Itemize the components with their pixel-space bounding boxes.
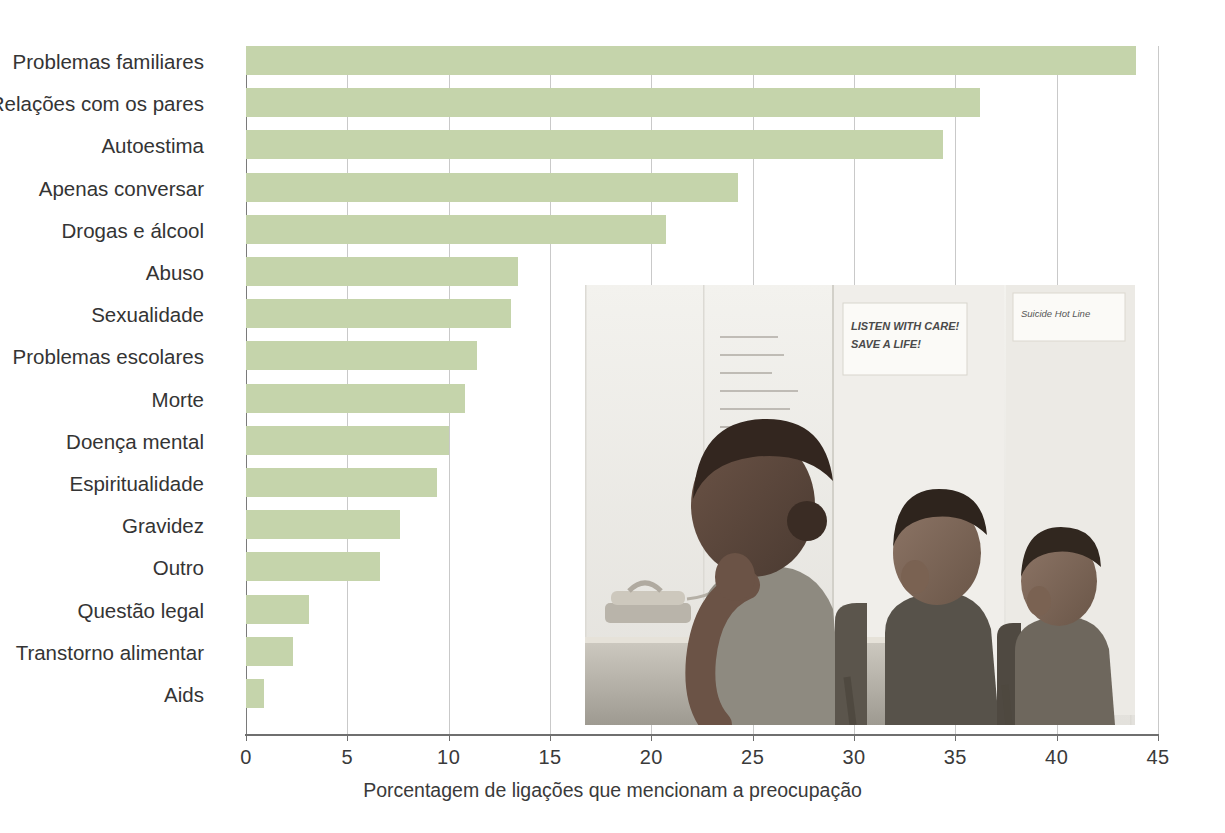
x-tick-mark-5 <box>347 734 348 741</box>
category-label: Morte <box>0 390 204 411</box>
x-tick-label-30: 30 <box>842 746 865 769</box>
bar <box>246 468 437 497</box>
category-label: Sexualidade <box>0 305 204 326</box>
bar-row <box>246 257 518 286</box>
category-label: Espiritualidade <box>0 474 204 495</box>
x-axis-line <box>245 734 1159 736</box>
bar-row <box>246 88 980 117</box>
x-tick-mark-35 <box>955 734 956 741</box>
category-label: Transtorno alimentar <box>0 643 204 664</box>
category-label: Drogas e álcool <box>0 221 204 242</box>
bar-row <box>246 426 449 455</box>
category-label: Aids <box>0 685 204 706</box>
x-tick-label-10: 10 <box>437 746 460 769</box>
bar <box>246 679 264 708</box>
x-tick-mark-10 <box>449 734 450 741</box>
category-label: Problemas familiares <box>0 52 204 73</box>
bar <box>246 510 400 539</box>
bar-row <box>246 384 465 413</box>
bar <box>246 637 293 666</box>
category-label: Problemas escolares <box>0 347 204 368</box>
photo-illustration: LISTEN WITH CARE! SAVE A LIFE! Suicide H… <box>585 285 1135 725</box>
x-tick-mark-30 <box>854 734 855 741</box>
bar-row <box>246 510 400 539</box>
x-tick-mark-45 <box>1158 734 1159 741</box>
category-label: Outro <box>0 558 204 579</box>
bar-row <box>246 299 511 328</box>
x-tick-label-20: 20 <box>640 746 663 769</box>
bar <box>246 552 380 581</box>
bar-row <box>246 130 943 159</box>
bar-row <box>246 173 738 202</box>
bar <box>246 173 738 202</box>
bar <box>246 257 518 286</box>
x-tick-mark-40 <box>1057 734 1058 741</box>
x-tick-label-5: 5 <box>342 746 354 769</box>
bar-row <box>246 468 437 497</box>
bar-row <box>246 341 477 370</box>
bar-row <box>246 215 666 244</box>
bar <box>246 215 666 244</box>
poster-text-suicide-hotline: Suicide Hot Line <box>1021 308 1090 319</box>
bar-chart-figure: 051015202530354045Problemas familiaresRe… <box>0 0 1225 833</box>
x-tick-mark-0 <box>246 734 247 741</box>
x-tick-label-0: 0 <box>240 746 252 769</box>
poster-text-save: SAVE A LIFE! <box>851 338 921 350</box>
bar <box>246 299 511 328</box>
category-label: Doença mental <box>0 432 204 453</box>
x-tick-label-25: 25 <box>741 746 764 769</box>
bar <box>246 595 309 624</box>
x-tick-label-40: 40 <box>1045 746 1068 769</box>
bar-row <box>246 46 1136 75</box>
bar-row <box>246 595 309 624</box>
x-tick-label-45: 45 <box>1146 746 1169 769</box>
category-label: Autoestima <box>0 136 204 157</box>
x-tick-label-35: 35 <box>944 746 967 769</box>
gridline-45 <box>1158 46 1159 734</box>
bar <box>246 130 943 159</box>
x-tick-mark-20 <box>651 734 652 741</box>
bar-row <box>246 637 293 666</box>
photo-inset: LISTEN WITH CARE! SAVE A LIFE! Suicide H… <box>585 285 1135 725</box>
bar <box>246 88 980 117</box>
category-label: Gravidez <box>0 516 204 537</box>
category-label: Abuso <box>0 263 204 284</box>
bar <box>246 341 477 370</box>
bar <box>246 426 449 455</box>
bar-row <box>246 552 380 581</box>
bar <box>246 384 465 413</box>
category-label: Apenas conversar <box>0 179 204 200</box>
x-axis-title: Porcentagem de ligações que mencionam a … <box>0 779 1225 802</box>
x-tick-label-15: 15 <box>538 746 561 769</box>
x-tick-mark-25 <box>753 734 754 741</box>
category-label: Relações com os pares <box>0 94 204 115</box>
bar <box>246 46 1136 75</box>
poster-text-listen: LISTEN WITH CARE! <box>851 320 959 332</box>
x-tick-mark-15 <box>550 734 551 741</box>
bar-row <box>246 679 264 708</box>
category-label: Questão legal <box>0 601 204 622</box>
